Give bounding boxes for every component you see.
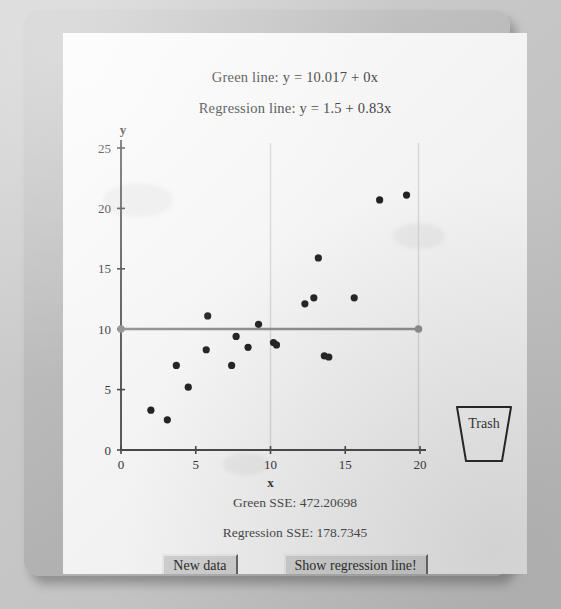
green-sse-label: Green SSE: 472.20698 [63,495,527,511]
data-point-9[interactable] [255,321,262,328]
data-point-5[interactable] [203,346,210,353]
y-tick-label-15: 15 [98,261,111,276]
button-row: New data Show regression line! [63,554,527,574]
x-tick-label-5: 5 [193,457,200,472]
x-tick-label-20: 20 [414,457,427,472]
x-tick-label-0: 0 [118,457,125,472]
plot-svg[interactable]: 051015200510152025yx [63,33,527,574]
data-point-11[interactable] [273,341,280,348]
data-point-14[interactable] [315,254,322,261]
scatter-plot[interactable]: 051015200510152025yx [63,33,527,574]
data-point-12[interactable] [301,300,308,307]
trash-icon [452,403,516,465]
data-point-7[interactable] [228,362,235,369]
data-point-6[interactable] [233,333,240,340]
regression-sse-label: Regression SSE: 178.7345 [63,525,527,541]
data-point-13[interactable] [310,294,317,301]
data-point-0[interactable] [147,407,154,414]
screenshot-root: Green line: y = 10.017 + 0x Regression l… [0,0,561,609]
x-axis-title: x [267,475,274,490]
data-point-8[interactable] [244,344,251,351]
data-point-18[interactable] [376,196,383,203]
trash-can[interactable]: Trash [452,403,516,465]
applet-frame: Green line: y = 10.017 + 0x Regression l… [24,10,510,576]
data-point-1[interactable] [164,416,171,423]
data-point-19[interactable] [403,192,410,199]
new-data-button[interactable]: New data [162,554,237,574]
data-point-17[interactable] [351,294,358,301]
green-line-handle-1[interactable] [415,325,423,333]
trash-label: Trash [452,416,516,432]
y-tick-label-25: 25 [98,141,111,156]
y-axis-title: y [120,122,127,137]
show-regression-line-button[interactable]: Show regression line! [284,554,428,574]
data-point-2[interactable] [173,362,180,369]
applet-canvas: Green line: y = 10.017 + 0x Regression l… [63,33,527,574]
x-tick-label-15: 15 [339,457,352,472]
data-point-3[interactable] [185,384,192,391]
x-tick-label-10: 10 [264,457,277,472]
data-point-16[interactable] [325,353,332,360]
y-tick-label-5: 5 [105,382,112,397]
y-tick-label-20: 20 [98,201,111,216]
y-tick-label-0: 0 [105,443,112,458]
data-point-4[interactable] [204,312,211,319]
green-line-handle-0[interactable] [117,325,125,333]
y-tick-label-10: 10 [98,322,111,337]
